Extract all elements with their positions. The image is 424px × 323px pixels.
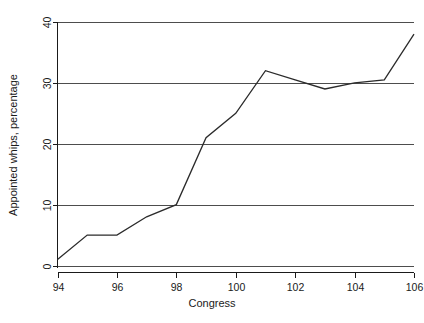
x-tick-label-102: 102 xyxy=(287,281,305,293)
x-tick-label-104: 104 xyxy=(347,281,365,293)
x-tick-label-94: 94 xyxy=(53,281,65,293)
line-chart: 010203040 949698100102104106 Congress Ap… xyxy=(0,0,424,323)
y-tick-label-10: 10 xyxy=(41,200,53,212)
x-tick-label-100: 100 xyxy=(228,281,246,293)
y-tick-label-30: 30 xyxy=(41,78,53,90)
x-tick-label-106: 106 xyxy=(406,281,424,293)
x-axis-title: Congress xyxy=(188,297,236,309)
y-axis-title: Appointed whips, percentage xyxy=(7,74,19,216)
chart-background xyxy=(0,0,424,323)
y-tick-label-20: 20 xyxy=(41,139,53,151)
y-tick-label-40: 40 xyxy=(41,17,53,29)
chart-page: 010203040 949698100102104106 Congress Ap… xyxy=(0,0,424,323)
y-tick-label-0: 0 xyxy=(41,263,53,269)
x-tick-label-96: 96 xyxy=(112,281,124,293)
x-tick-label-98: 98 xyxy=(171,281,183,293)
